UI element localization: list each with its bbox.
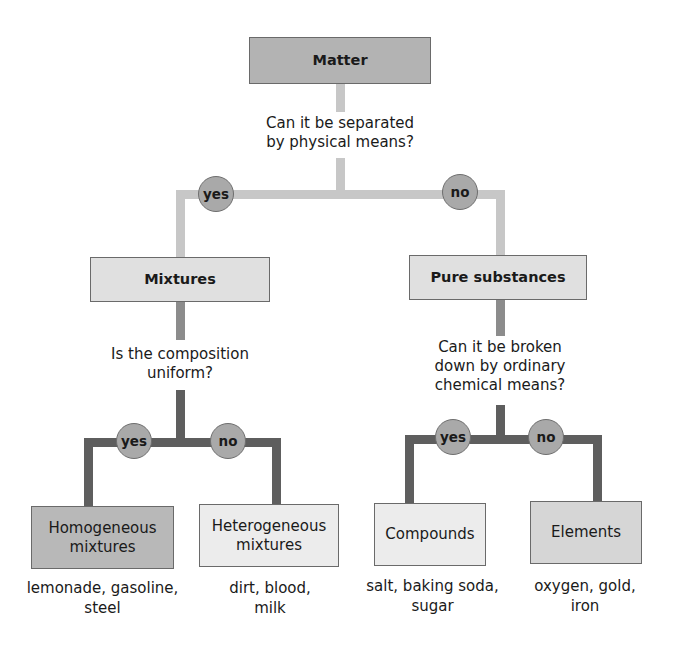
mixtures-no-circle: no: [210, 423, 246, 459]
compounds-box: Compounds: [374, 503, 486, 566]
connector-pure-stem-top: [496, 298, 505, 336]
heterogeneous-examples: dirt, blood, milk: [185, 578, 355, 618]
homogeneous-examples: lemonade, gasoline, steel: [10, 578, 195, 618]
connector-elements-drop: [593, 435, 602, 503]
connector-pure-stem-bottom: [496, 405, 505, 435]
level1-no-circle: no: [442, 174, 478, 210]
connector-compounds-drop: [405, 435, 414, 505]
connector-heterogeneous-drop: [272, 438, 281, 506]
connector-mixtures-stem-top: [176, 300, 185, 340]
connector-mixtures-bar: [84, 438, 281, 447]
pure-yes-circle: yes: [435, 419, 471, 455]
connector-mixtures-stem-bottom: [176, 390, 185, 438]
mixtures-label: Mixtures: [144, 270, 216, 289]
mixtures-yes-circle: yes: [116, 423, 152, 459]
homogeneous-mixtures-box: Homogeneous mixtures: [31, 506, 174, 569]
connector-homogeneous-drop: [84, 438, 93, 508]
level1-yes-circle: yes: [198, 176, 234, 212]
heterogeneous-mixtures-box: Heterogeneous mixtures: [199, 504, 339, 567]
compounds-examples: salt, baking soda, sugar: [355, 576, 510, 616]
pure-substances-label: Pure substances: [430, 268, 565, 287]
pure-no-circle: no: [528, 419, 564, 455]
connector-level1-left-drop: [176, 190, 185, 260]
matter-label: Matter: [312, 51, 367, 70]
mixtures-question: Is the composition uniform?: [90, 345, 270, 383]
connector-root-stem-bottom: [336, 158, 345, 190]
elements-examples: oxygen, gold, iron: [515, 576, 655, 616]
connector-root-stem-top: [336, 84, 345, 112]
pure-substances-question: Can it be broken down by ordinary chemic…: [400, 338, 600, 395]
connector-level1-right-drop: [496, 190, 505, 260]
pure-substances-box: Pure substances: [409, 255, 587, 300]
root-question: Can it be separated by physical means?: [240, 114, 440, 152]
matter-box: Matter: [249, 37, 431, 84]
elements-box: Elements: [530, 501, 642, 564]
mixtures-box: Mixtures: [90, 257, 270, 302]
